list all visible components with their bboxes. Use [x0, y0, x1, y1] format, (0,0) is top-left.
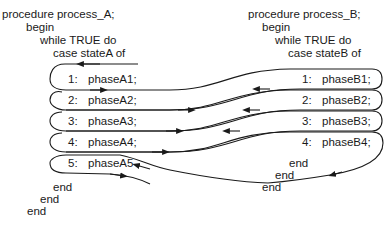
flow-a5-exit	[66, 173, 150, 184]
process-b-begin: begin	[262, 21, 290, 34]
case-a4-label: 4:	[68, 136, 78, 149]
case-a3-label: 3:	[68, 115, 78, 128]
case-a5-label: 5:	[68, 157, 78, 170]
case-b1-phase: phaseB1;	[322, 73, 371, 86]
case-a3-phase: phaseA3;	[88, 115, 137, 128]
case-b2-label: 2:	[302, 94, 312, 107]
case-b3-label: 3:	[302, 115, 312, 128]
process-a-while: while TRUE do	[40, 34, 117, 47]
process-a-procedure: procedure process_A;	[2, 8, 115, 21]
process-b-while: while TRUE do	[275, 34, 352, 47]
case-a1-phase: phaseA1;	[88, 73, 137, 86]
process-a-case: case stateA of	[53, 47, 125, 60]
case-b3-phase: phaseB3;	[322, 115, 371, 128]
process-a-end-proc: end	[27, 205, 46, 218]
flow-b4-to-a5	[50, 155, 268, 183]
case-a1-label: 1:	[68, 73, 78, 86]
case-a2-label: 2:	[68, 94, 78, 107]
process-b-case: case stateB of	[288, 47, 361, 60]
process-b-procedure: procedure process_B;	[248, 8, 361, 21]
process-a-begin: begin	[26, 21, 54, 34]
case-b4-phase: phaseB4;	[322, 136, 371, 149]
case-a2-phase: phaseA2;	[88, 94, 137, 107]
case-b4-label: 4:	[302, 136, 312, 149]
process-b-end-proc: end	[262, 181, 281, 194]
case-b1-label: 1:	[302, 73, 312, 86]
case-a4-phase: phaseA4;	[88, 136, 137, 149]
case-a5-phase: phaseA5	[88, 157, 133, 170]
case-b2-phase: phaseB2;	[322, 94, 371, 107]
